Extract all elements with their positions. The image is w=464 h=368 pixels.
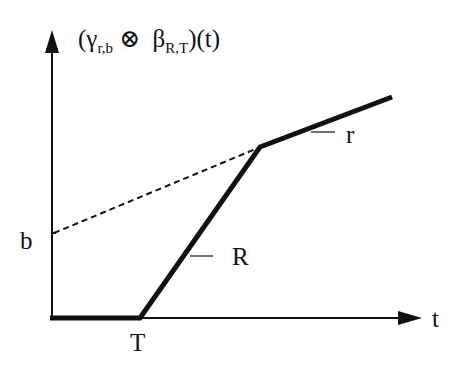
label-t: t — [432, 306, 439, 331]
convolution-curve — [50, 97, 392, 318]
label-r: r — [346, 122, 354, 147]
y-axis-arrow-icon — [45, 30, 59, 53]
diagram-title: (γr,b ⊗ βR,T)(t) — [78, 26, 220, 56]
x-axis-arrow-icon — [398, 311, 422, 325]
label-b: b — [20, 228, 33, 253]
label-R: R — [232, 244, 249, 269]
label-T: T — [130, 330, 145, 355]
diagram-canvas — [0, 0, 464, 368]
